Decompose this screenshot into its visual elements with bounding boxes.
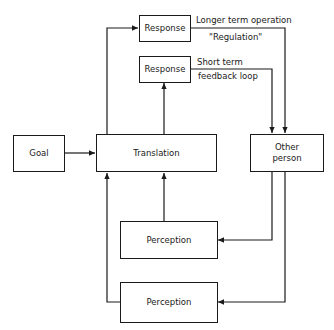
response-top-box: Response	[139, 15, 191, 42]
other-person-box: Other person	[250, 134, 324, 172]
feedback-loop-label: feedback loop	[198, 71, 258, 81]
response-mid-box: Response	[139, 56, 191, 83]
perception-top-box: Perception	[120, 221, 218, 259]
translation-box: Translation	[96, 134, 217, 172]
response-top-label: Response	[145, 23, 186, 34]
arrow-other-to-perception-top	[218, 171, 272, 240]
perception-bottom-box: Perception	[120, 282, 218, 323]
other-person-label-line2: person	[272, 153, 301, 164]
arrow-other-to-perception-bottom	[218, 171, 285, 302]
arrow-translation-to-response-top	[107, 28, 138, 134]
response-mid-label: Response	[145, 64, 186, 75]
longer-term-label: Longer term operation	[196, 15, 292, 25]
perception-top-label: Perception	[147, 235, 192, 246]
translation-label: Translation	[133, 148, 179, 159]
arrow-perception-bottom-to-translation	[107, 173, 120, 302]
perception-bottom-label: Perception	[147, 297, 192, 308]
goal-box: Goal	[13, 135, 65, 172]
goal-label: Goal	[29, 148, 48, 159]
other-person-label-line1: Other	[275, 142, 299, 153]
regulation-label: "Regulation"	[209, 32, 262, 42]
short-term-label: Short term	[197, 57, 243, 67]
